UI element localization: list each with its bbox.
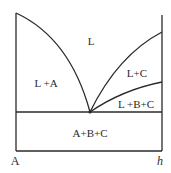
phase-diagram: L L +A L+C L +B+C A+B+C A h xyxy=(0,0,171,173)
axis-label-h: h xyxy=(157,154,163,168)
region-label-a-b-c: A+B+C xyxy=(72,127,107,139)
region-label-l-b-c: L +B+C xyxy=(118,98,154,110)
liquidus-a-curve xyxy=(16,13,90,112)
axis-label-a: A xyxy=(11,154,20,168)
eutectic-point xyxy=(88,110,91,113)
region-label-l-a: L +A xyxy=(34,77,57,89)
region-label-l-c: L+C xyxy=(127,67,147,79)
region-label-l: L xyxy=(88,35,95,47)
